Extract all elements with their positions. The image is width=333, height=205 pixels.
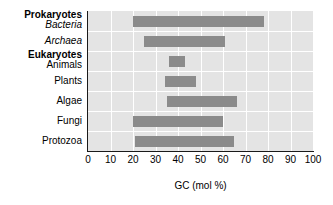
bar-fungi bbox=[133, 116, 223, 127]
category-label-protozoa: Protozoa bbox=[42, 136, 82, 146]
category-label-fungi: Fungi bbox=[57, 116, 82, 126]
x-axis-tick-labels: 0102030405060708090100 bbox=[0, 154, 333, 168]
gridline-vertical bbox=[201, 11, 202, 151]
gridline-horizontal bbox=[88, 31, 313, 32]
bar-plants bbox=[165, 76, 197, 87]
gridline-vertical bbox=[313, 11, 314, 151]
bar-animals bbox=[169, 56, 185, 67]
gridline-vertical bbox=[133, 11, 134, 151]
x-axis-title: GC (mol %) bbox=[88, 180, 313, 191]
category-label-bacteria: Bacteria bbox=[45, 20, 82, 30]
gridline-vertical bbox=[223, 11, 224, 151]
x-tick-80: 80 bbox=[262, 154, 273, 166]
x-tick-20: 20 bbox=[127, 154, 138, 166]
category-label-plants: Plants bbox=[54, 76, 82, 86]
x-tick-0: 0 bbox=[85, 154, 91, 166]
gridline-horizontal bbox=[88, 91, 313, 92]
bar-archaea bbox=[144, 36, 225, 47]
gc-content-range-chart: ProkaryotesBacteriaArchaeaEukaryotesAnim… bbox=[0, 0, 333, 205]
gridline-vertical bbox=[156, 11, 157, 151]
x-tick-30: 30 bbox=[150, 154, 161, 166]
x-tick-40: 40 bbox=[172, 154, 183, 166]
plot-area bbox=[88, 11, 313, 151]
x-tick-50: 50 bbox=[195, 154, 206, 166]
bar-protozoa bbox=[135, 136, 234, 147]
gridline-horizontal bbox=[88, 131, 313, 132]
x-tick-90: 90 bbox=[285, 154, 296, 166]
x-tick-100: 100 bbox=[305, 154, 322, 166]
x-tick-60: 60 bbox=[217, 154, 228, 166]
gridline-vertical bbox=[268, 11, 269, 151]
gridline-vertical bbox=[246, 11, 247, 151]
gridline-horizontal bbox=[88, 51, 313, 52]
bar-bacteria bbox=[133, 16, 264, 27]
bar-algae bbox=[167, 96, 237, 107]
gridline-vertical bbox=[291, 11, 292, 151]
y-axis-line bbox=[87, 11, 88, 152]
x-tick-10: 10 bbox=[105, 154, 116, 166]
category-label-archaea: Archaea bbox=[45, 36, 82, 46]
gridline-horizontal bbox=[88, 111, 313, 112]
gridline-vertical bbox=[111, 11, 112, 151]
category-label-animals: Animals bbox=[46, 60, 82, 70]
x-tick-70: 70 bbox=[240, 154, 251, 166]
category-label-algae: Algae bbox=[56, 96, 82, 106]
gridline-horizontal bbox=[88, 71, 313, 72]
x-axis-line bbox=[87, 151, 314, 152]
category-axis-labels: ProkaryotesBacteriaArchaeaEukaryotesAnim… bbox=[0, 10, 84, 146]
